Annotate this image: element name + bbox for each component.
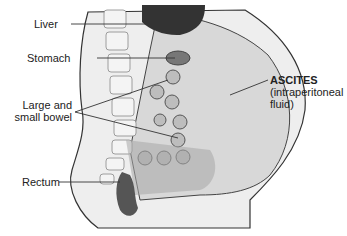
- label-stomach: Stomach: [27, 52, 70, 64]
- label-ascites: ASCITES (intraperitoneal fluid): [270, 74, 343, 110]
- label-ascites-line2: (intraperitoneal: [270, 86, 343, 98]
- label-liver: Liver: [34, 18, 58, 30]
- label-ascites-line3: fluid): [270, 98, 343, 110]
- label-rectum: Rectum: [22, 176, 60, 188]
- label-bowel: Large and small bowel: [14, 99, 72, 123]
- ascites-diagram: Liver Stomach Large and small bowel Rect…: [0, 0, 347, 236]
- label-ascites-title: ASCITES: [270, 74, 343, 86]
- label-bowel-line2: small bowel: [14, 111, 72, 123]
- label-bowel-line1: Large and: [14, 99, 72, 111]
